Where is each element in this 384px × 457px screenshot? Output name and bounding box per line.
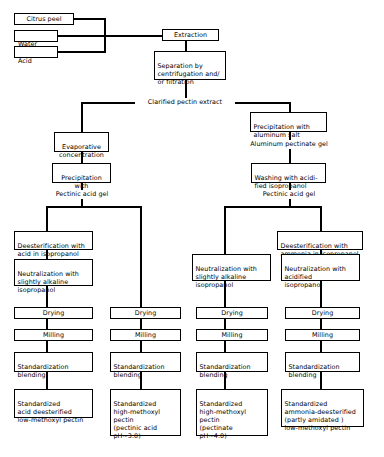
node-col2-standardization-label: Standardization blending <box>114 363 165 379</box>
node-pectinic-acid-gel-right: Pectinic acid gel <box>255 190 323 198</box>
connector-clarified-split-right <box>233 102 290 104</box>
node-col4-standardization: Standardization blending <box>285 352 360 372</box>
node-extraction-label: Extraction <box>174 31 207 39</box>
node-washing-acidified: Washing with acidi- fied isopropanol <box>251 163 326 183</box>
node-col4-product: Standardized ammonia-deesterified (partl… <box>281 389 364 427</box>
node-col3-drying: Drying <box>196 307 268 319</box>
connector-col4-drop <box>320 206 322 231</box>
connector-col4-std-to-product <box>320 372 322 389</box>
node-col1-standardization-label: Standardization blending <box>18 363 69 379</box>
node-col3-standardization-label: Standardization blending <box>200 363 251 379</box>
node-precipitation-isopropanol: Precipitation with isopropanol <box>52 163 111 183</box>
node-evaporative-concentration-label: Evaporative concentration <box>59 143 104 159</box>
node-col2-product: Standardized high-methoxyl pectin (pecti… <box>110 389 181 436</box>
node-col2-drying-label: Drying <box>135 309 157 317</box>
connector-col2-drop <box>140 206 142 307</box>
connector-gel-left-to-col1 <box>46 206 82 208</box>
node-pectinic-acid-gel-right-label: Pectinic acid gel <box>263 190 316 198</box>
connector-col1-milling-to-std <box>46 341 48 352</box>
connector-extraction-to-separation <box>185 41 187 51</box>
node-col4-milling-label: Milling <box>312 331 333 339</box>
node-acid: Acid <box>14 46 58 58</box>
connector-acid-to-bus <box>57 51 106 53</box>
node-col1-drying: Drying <box>14 307 93 319</box>
node-col1-standardization: Standardization blending <box>14 352 93 372</box>
connector-gel-to-washing <box>289 149 291 163</box>
node-col2-product-label: Standardized high-methoxyl pectin (pecti… <box>114 400 161 440</box>
node-clarified-pectin-extract-label: Clarified pectin extract <box>148 98 222 106</box>
node-clarified-pectin-extract: Clarified pectin extract <box>135 98 235 106</box>
connector-gel-right-to-col3 <box>224 206 289 208</box>
node-col3-milling-label: Milling <box>221 331 242 339</box>
connector-col4-drying-to-milling <box>320 319 322 329</box>
node-acid-label: Acid <box>18 57 32 65</box>
node-col4-drying: Drying <box>285 307 360 319</box>
node-col2-milling-label: Milling <box>135 331 156 339</box>
connector-col3-milling-to-std <box>224 341 226 352</box>
connector-col2-drying-to-milling <box>140 319 142 329</box>
node-aluminum-pectinate-gel-label: Aluminum pectinate gel <box>250 140 328 148</box>
node-precipitation-aluminum: Precipitation with aluminum salt <box>250 112 327 132</box>
node-col4-deesterification: Deesterification with ammonia in isoprop… <box>277 231 363 250</box>
connector-clarified-down-left <box>81 102 83 133</box>
node-pectinic-acid-gel-left: Pectinic acid gel <box>48 190 116 198</box>
connector-bus-to-extraction <box>104 35 163 37</box>
node-col3-product: Standardized high-methoxyl pectin (pecti… <box>196 389 268 436</box>
connector-col1-drop <box>46 206 48 231</box>
flowchart-diagram: Citrus peel Water Acid Extraction Separa… <box>0 0 384 457</box>
node-col4-product-label: Standardized ammonia-deesterified (partl… <box>285 400 356 432</box>
node-col4-drying-label: Drying <box>312 309 334 317</box>
node-col1-neutralization: Neutralization with slightly alkaline is… <box>14 259 93 286</box>
connector-col2-milling-to-std <box>140 341 142 352</box>
node-col2-drying: Drying <box>110 307 181 319</box>
node-col4-neutralization-label: Neutralization with acidified isopropano… <box>285 265 346 289</box>
connector-gel-right-to-col4 <box>289 206 322 208</box>
node-col3-neutralization-label: Neutralization with slightly alkaline is… <box>196 265 257 289</box>
connector-water-to-bus <box>57 35 106 37</box>
node-col3-standardization: Standardization blending <box>196 352 268 372</box>
connector-col1-drying-to-milling <box>46 319 48 329</box>
node-separation: Separation by centrifugation and/ or fil… <box>154 51 226 80</box>
node-col1-milling: Milling <box>14 329 93 341</box>
node-col3-neutralization: Neutralization with slightly alkaline is… <box>192 254 271 281</box>
node-col1-milling-label: Milling <box>43 331 64 339</box>
connector-col1-std-to-product <box>46 372 48 389</box>
connector-clarified-split-left <box>81 102 137 104</box>
node-col2-standardization: Standardization blending <box>110 352 181 372</box>
node-citrus-peel: Citrus peel <box>14 13 74 25</box>
node-evaporative-concentration: Evaporative concentration <box>54 132 109 152</box>
node-pectinic-acid-gel-left-label: Pectinic acid gel <box>56 190 109 198</box>
node-col3-drying-label: Drying <box>221 309 243 317</box>
connector-col4-milling-to-std <box>320 341 322 352</box>
node-col1-deesterification-label: Deesterification with acid in isopropano… <box>18 242 85 258</box>
node-col4-milling: Milling <box>285 329 360 341</box>
connector-col3-drop <box>224 206 226 254</box>
connector-gel-left-to-col2 <box>81 206 141 208</box>
node-col1-neutralization-label: Neutralization with slightly alkaline is… <box>18 270 79 294</box>
node-separation-label: Separation by centrifugation and/ or fil… <box>158 62 220 86</box>
node-aluminum-pectinate-gel: Aluminum pectinate gel <box>241 140 337 148</box>
node-col1-deesterification: Deesterification with acid in isopropano… <box>14 231 93 250</box>
node-precipitation-aluminum-label: Precipitation with aluminum salt <box>254 123 310 139</box>
node-extraction: Extraction <box>162 29 219 42</box>
connector-citrus-to-bus <box>73 18 106 20</box>
node-col2-milling: Milling <box>110 329 181 341</box>
connector-col3-drying-to-milling <box>224 319 226 329</box>
node-col4-standardization-label: Standardization blending <box>289 363 340 379</box>
node-citrus-peel-label: Citrus peel <box>26 15 61 23</box>
node-col1-product: Standardized acid deesterified low-metho… <box>14 389 93 418</box>
node-col3-milling: Milling <box>196 329 268 341</box>
node-col3-product-label: Standardized high-methoxyl pectin (pecti… <box>200 400 247 440</box>
node-water: Water <box>14 30 58 42</box>
connector-clarified-down-right <box>289 102 291 113</box>
node-col4-neutralization: Neutralization with acidified isopropano… <box>281 254 360 281</box>
node-washing-acidified-label: Washing with acidi- fied isopropanol <box>255 174 318 190</box>
node-col1-product-label: Standardized acid deesterified low-metho… <box>18 400 84 424</box>
node-col1-drying-label: Drying <box>43 309 65 317</box>
